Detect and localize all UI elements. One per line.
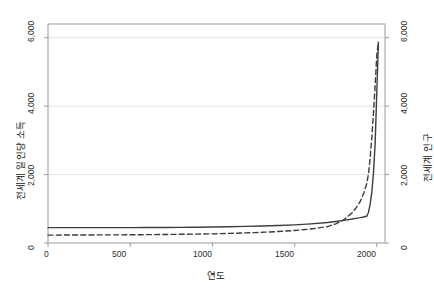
x-tick-label-3: 1500: [275, 249, 294, 259]
y-tick-label-left-2: 4,000: [26, 93, 36, 114]
y-tick-label-left-3: 6,000: [26, 21, 36, 42]
x-tick-label-0: 0: [44, 249, 49, 259]
y-tick-label-right-3: 6,000: [399, 21, 409, 42]
series-line-0: [48, 42, 378, 227]
y-axis-left-title: 전세계 일인당 소득: [13, 121, 27, 200]
x-tick-label-1: 500: [112, 249, 126, 259]
plot-border: [48, 24, 385, 243]
x-axis-title: 연도: [0, 268, 432, 282]
y-axis-right-title: 전세계 인구: [420, 133, 434, 182]
plot-frame: [48, 24, 385, 243]
data-series-group: [48, 42, 378, 235]
x-tick-label-4: 2000: [357, 249, 376, 259]
y-tick-label-left-1: 2,000: [26, 165, 36, 186]
y-tick-label-right-2: 4,000: [399, 93, 409, 114]
x-tick-label-2: 1000: [193, 249, 212, 259]
y-tick-label-right-1: 2,000: [399, 165, 409, 186]
y-tick-label-left-0: 0: [26, 245, 36, 250]
y-tick-label-right-0: 0: [399, 245, 409, 250]
axis-ticks: [44, 38, 389, 247]
gridlines-group: [48, 38, 385, 175]
series-line-1: [48, 42, 378, 235]
